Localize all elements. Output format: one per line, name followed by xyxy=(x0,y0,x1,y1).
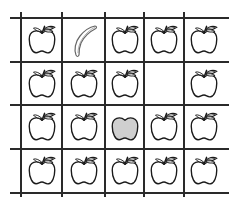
apple-icon xyxy=(147,22,181,58)
grid-cell xyxy=(106,150,143,192)
grid-cell xyxy=(63,106,104,148)
apple-icon xyxy=(108,66,142,102)
banana-icon xyxy=(69,22,99,58)
grid-cell xyxy=(185,106,223,148)
apple-icon xyxy=(25,153,59,189)
apple-icon xyxy=(187,66,221,102)
apple-icon xyxy=(187,153,221,189)
grid-cell xyxy=(63,19,104,61)
apple-icon xyxy=(187,109,221,145)
grid-cell xyxy=(145,150,183,192)
grid-cell xyxy=(63,63,104,104)
apple-icon xyxy=(147,109,181,145)
apple-icon xyxy=(67,153,101,189)
grid-cell xyxy=(63,150,104,192)
grid-cell xyxy=(22,106,61,148)
grid-cell xyxy=(185,63,223,104)
gray-apple-icon xyxy=(108,109,142,145)
grid-cell xyxy=(185,150,223,192)
apple-icon xyxy=(108,153,142,189)
grid-cell xyxy=(185,19,223,61)
grid-cell xyxy=(106,19,143,61)
grid-cell xyxy=(106,63,143,104)
apple-icon xyxy=(187,22,221,58)
grid-cell xyxy=(22,19,61,61)
apple-icon xyxy=(67,66,101,102)
grid-cell xyxy=(145,19,183,61)
apple-icon xyxy=(25,22,59,58)
grid-cell xyxy=(145,63,183,104)
grid-line-horizontal xyxy=(10,192,229,194)
grid-cell xyxy=(145,106,183,148)
grid-cell xyxy=(22,63,61,104)
apple-icon xyxy=(147,153,181,189)
apple-icon xyxy=(25,109,59,145)
apple-icon xyxy=(108,22,142,58)
apple-icon xyxy=(25,66,59,102)
apple-icon xyxy=(67,109,101,145)
grid-cell xyxy=(22,150,61,192)
grid-cell xyxy=(106,106,143,148)
